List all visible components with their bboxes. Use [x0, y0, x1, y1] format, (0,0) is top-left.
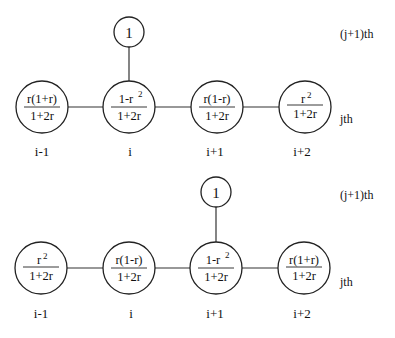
stencil-top: 1 r(1+r) 1+2r i-1 1-r 2 1+2r i r(1-r) 1+… — [16, 17, 373, 159]
numerator-superscript: 2 — [43, 251, 48, 261]
diagram-canvas: 1 r(1+r) 1+2r i-1 1-r 2 1+2r i r(1-r) 1+… — [0, 0, 395, 338]
denominator: 1+2r — [205, 109, 230, 123]
upper-node-value: 1 — [212, 185, 220, 201]
index-label: i — [129, 306, 133, 321]
numerator: 1-r — [119, 92, 134, 106]
upper-node-value: 1 — [125, 25, 133, 41]
numerator-superscript: 2 — [225, 250, 230, 260]
row-label-upper: (j+1)th — [340, 188, 373, 202]
denominator: 1+2r — [292, 269, 317, 283]
numerator: r(1+r) — [27, 92, 57, 106]
index-label: i+2 — [293, 306, 310, 321]
upper-node: 1 — [114, 17, 144, 47]
numerator-superscript: 2 — [138, 89, 143, 99]
denominator: 1+2r — [293, 107, 318, 121]
index-label: i — [128, 144, 132, 159]
node-i-minus-1: r 2 1+2r i-1 — [15, 242, 67, 321]
index-label: i+1 — [206, 306, 223, 321]
numerator: r(1-r) — [115, 253, 142, 267]
node-i: r(1-r) 1+2r i — [103, 242, 155, 321]
row-label-lower: jth — [339, 112, 353, 126]
node-i: 1-r 2 1+2r i — [103, 81, 155, 159]
row-label-lower: jth — [339, 275, 353, 289]
node-i-minus-1: r(1+r) 1+2r i-1 — [16, 81, 68, 159]
numerator: r(1+r) — [289, 253, 319, 267]
index-label: i-1 — [35, 144, 49, 159]
row-label-upper: (j+1)th — [340, 27, 373, 41]
node-i-plus-2: r(1+r) 1+2r i+2 — [278, 242, 330, 321]
denominator: 1+2r — [29, 269, 54, 283]
stencil-bottom: 1 r 2 1+2r i-1 r(1-r) 1+2r i 1-r 2 1+2r … — [15, 177, 373, 321]
index-label: i+2 — [293, 144, 310, 159]
node-i-plus-2: r 2 1+2r i+2 — [279, 81, 331, 159]
node-i-plus-1: r(1-r) 1+2r i+1 — [191, 81, 243, 159]
denominator: 1+2r — [117, 109, 142, 123]
denominator: 1+2r — [30, 109, 55, 123]
numerator: r(1-r) — [203, 92, 230, 106]
denominator: 1+2r — [117, 270, 142, 284]
node-i-plus-1: 1-r 2 1+2r i+1 — [190, 242, 242, 321]
upper-node: 1 — [201, 177, 231, 207]
denominator: 1+2r — [204, 270, 229, 284]
index-label: i+1 — [206, 144, 223, 159]
index-label: i-1 — [34, 306, 48, 321]
numerator-superscript: 2 — [307, 90, 312, 100]
numerator: 1-r — [206, 253, 221, 267]
